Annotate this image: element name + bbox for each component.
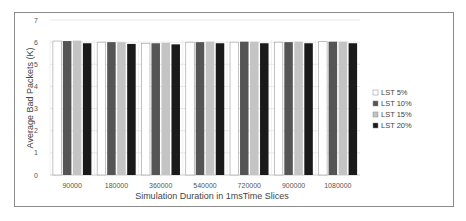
bar-lst-5--180000: [97, 42, 106, 175]
bar-lst-10--180000: [107, 42, 116, 175]
bar-lst-10--720000: [240, 42, 249, 175]
bar-lst-5--540000: [186, 42, 195, 175]
bar-lst-10--900000: [284, 42, 293, 175]
legend-swatch: [373, 123, 378, 128]
x-axis-title: Simulation Duration in 1msTime Slices: [135, 191, 289, 201]
legend-swatch: [373, 112, 378, 117]
bar-lst-20--900000: [304, 43, 313, 175]
bars: [53, 41, 357, 175]
legend-label: LST 10%: [381, 99, 412, 108]
x-tick-label: 720000: [238, 182, 261, 189]
bar-lst-10--360000: [151, 43, 160, 175]
bar-lst-20--180000: [127, 44, 136, 175]
bar-lst-15--720000: [250, 42, 258, 175]
bar-lst-20--540000: [216, 43, 225, 175]
y-tick-label: 6: [34, 39, 38, 46]
bar-lst-20--90000: [83, 43, 92, 175]
bar-lst-10--90000: [63, 41, 71, 175]
bar-lst-15--900000: [294, 42, 303, 175]
bar-lst-20--1080000: [349, 43, 358, 175]
bar-lst-10--540000: [196, 42, 205, 175]
legend-swatch: [373, 90, 378, 95]
y-tick-label: 1: [34, 149, 38, 156]
y-tick-label: 0: [34, 172, 38, 179]
bar-lst-20--360000: [171, 44, 180, 175]
x-tick-label: 1080000: [324, 182, 351, 189]
legend-label: LST 20%: [381, 121, 412, 130]
y-tick-label: 7: [34, 17, 38, 24]
legend: LST 5%LST 10%LST 15%LST 20%: [373, 88, 412, 130]
bar-lst-15--360000: [161, 43, 170, 175]
x-tick-label: 180000: [105, 182, 128, 189]
bar-lst-15--1080000: [339, 42, 348, 175]
x-tick-label: 900000: [282, 182, 305, 189]
bar-lst-5--1080000: [319, 42, 328, 175]
bar-lst-5--900000: [274, 42, 283, 175]
legend-label: LST 5%: [381, 88, 408, 97]
bar-lst-15--540000: [206, 42, 215, 175]
bar-chart: 01234567 9000018000036000054000072000090…: [0, 0, 466, 221]
legend-label: LST 15%: [381, 110, 412, 119]
bar-lst-5--90000: [53, 41, 62, 175]
x-tick-label: 540000: [193, 182, 216, 189]
bar-lst-15--180000: [117, 42, 126, 175]
gridlines: [50, 20, 360, 175]
bar-lst-10--1080000: [329, 42, 338, 175]
x-tick-label: 90000: [62, 182, 82, 189]
y-axis-title: Average Bad Packets (K): [25, 48, 35, 149]
x-tick-label: 360000: [149, 182, 172, 189]
x-axis-ticks: 9000018000036000054000072000090000010800…: [62, 182, 351, 189]
bar-lst-5--360000: [141, 43, 150, 175]
bar-lst-20--720000: [260, 43, 269, 175]
bar-lst-5--720000: [230, 42, 239, 175]
legend-swatch: [373, 101, 378, 106]
bar-lst-15--90000: [73, 41, 82, 175]
